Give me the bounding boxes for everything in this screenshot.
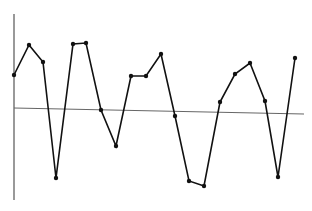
data-point-12 bbox=[173, 114, 177, 118]
data-point-7 bbox=[99, 108, 103, 112]
data-point-5 bbox=[71, 42, 75, 46]
data-point-11 bbox=[159, 52, 163, 56]
data-point-20 bbox=[293, 56, 297, 60]
data-point-17 bbox=[248, 61, 252, 65]
data-point-4 bbox=[54, 176, 58, 180]
data-point-3 bbox=[41, 60, 45, 64]
zero-baseline bbox=[14, 108, 304, 114]
data-point-15 bbox=[218, 100, 222, 104]
line-chart bbox=[0, 0, 312, 211]
data-point-14 bbox=[202, 184, 206, 188]
data-series-line bbox=[14, 43, 295, 186]
data-point-6 bbox=[84, 41, 88, 45]
data-point-13 bbox=[187, 179, 191, 183]
data-point-9 bbox=[129, 74, 133, 78]
data-point-2 bbox=[27, 43, 31, 47]
data-point-10 bbox=[144, 74, 148, 78]
data-point-19 bbox=[276, 175, 280, 179]
data-point-16 bbox=[233, 72, 237, 76]
data-point-18 bbox=[263, 99, 267, 103]
data-point-8 bbox=[114, 144, 118, 148]
data-point-1 bbox=[12, 73, 16, 77]
